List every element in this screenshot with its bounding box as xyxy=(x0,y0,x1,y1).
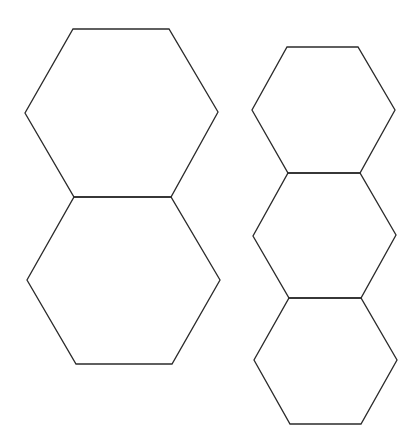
right-middle-hexagon xyxy=(253,173,396,298)
right-bottom-hexagon xyxy=(254,298,397,424)
right-column-group xyxy=(252,47,397,424)
left-top-hexagon xyxy=(25,29,218,197)
right-top-hexagon xyxy=(252,47,395,173)
left-bottom-hexagon xyxy=(27,197,220,364)
left-column-group xyxy=(25,29,220,364)
hexagon-diagram xyxy=(0,0,418,445)
